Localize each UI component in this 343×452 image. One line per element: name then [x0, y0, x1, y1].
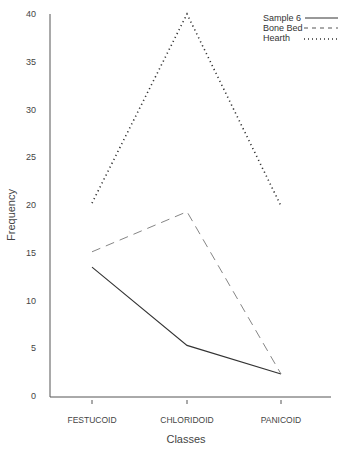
legend: Sample 6 Bone Bed Hearth — [263, 13, 340, 43]
y-tick-label: 15 — [26, 248, 36, 258]
series-line-hearth — [92, 14, 281, 206]
line-chart: 0510152025303540 FESTUCOIDCHLORIDOIDPANI… — [0, 0, 343, 452]
y-tick-label: 5 — [31, 343, 36, 353]
series-line-sample-6 — [92, 267, 281, 374]
series-lines — [92, 14, 281, 374]
y-tick-label: 35 — [26, 57, 36, 67]
y-tick-label: 10 — [26, 296, 36, 306]
x-tick-label: CHLORIDOID — [160, 415, 213, 425]
legend-label-bone-bed: Bone Bed — [263, 23, 303, 33]
x-axis-title: Classes — [166, 433, 206, 445]
y-tick-label: 0 — [31, 391, 36, 401]
x-tick-label: FESTUCOID — [67, 415, 116, 425]
y-tick-label: 30 — [26, 105, 36, 115]
legend-label-hearth: Hearth — [263, 33, 290, 43]
series-line-bone-bed — [92, 212, 281, 374]
y-tick-label: 25 — [26, 152, 36, 162]
y-tick-label: 20 — [26, 200, 36, 210]
x-tick-label: PANICOID — [261, 415, 301, 425]
y-axis-title: Frequency — [5, 189, 17, 241]
x-axis-ticks: FESTUCOIDCHLORIDOIDPANICOID — [67, 400, 301, 425]
legend-label-sample-6: Sample 6 — [263, 13, 301, 23]
y-tick-label: 40 — [26, 9, 36, 19]
y-axis-ticks: 0510152025303540 — [26, 9, 36, 401]
